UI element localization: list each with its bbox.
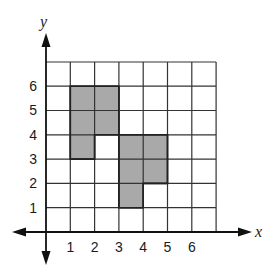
y-tick-3: 3 <box>29 151 37 167</box>
x-tick-5: 5 <box>164 239 172 255</box>
x-tick-3: 3 <box>115 239 123 255</box>
arrow-right-icon <box>238 228 252 237</box>
x-tick-2: 2 <box>91 239 99 255</box>
arrow-up-icon <box>42 33 51 47</box>
y-tick-6: 6 <box>29 78 37 94</box>
y-tick-5: 5 <box>29 102 37 118</box>
coordinate-grid-diagram: x y 1 2 3 4 5 6 1 2 3 4 5 6 <box>0 0 271 274</box>
x-tick-6: 6 <box>188 239 196 255</box>
x-tick-4: 4 <box>139 239 147 255</box>
y-tick-4: 4 <box>29 127 37 143</box>
arrow-left-icon <box>12 228 26 237</box>
arrow-down-icon <box>42 251 51 265</box>
y-tick-2: 2 <box>29 175 37 191</box>
y-axis-label: y <box>38 13 48 31</box>
x-tick-labels: 1 2 3 4 5 6 <box>66 239 196 255</box>
y-tick-1: 1 <box>29 200 37 216</box>
x-tick-1: 1 <box>66 239 74 255</box>
y-tick-labels: 1 2 3 4 5 6 <box>29 78 37 216</box>
x-axis-label: x <box>254 223 262 240</box>
